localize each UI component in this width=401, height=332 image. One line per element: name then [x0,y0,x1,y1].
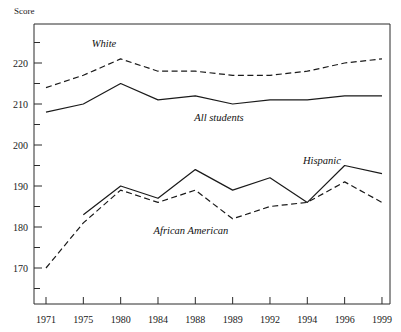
score-trend-line-chart: Score 170180190200210220 197119751980198… [0,0,401,332]
y-tick-label: 180 [13,222,28,233]
series-annotation-all-students: All students [193,112,243,123]
y-tick-label: 210 [13,99,28,110]
x-tick-label: 1975 [73,314,93,325]
y-tick-label: 170 [13,263,28,274]
y-axis-title: Score [14,6,35,16]
x-tick-label: 1980 [111,314,131,325]
chart-background [0,0,401,332]
chart-container: Score 170180190200210220 197119751980198… [0,0,401,332]
series-annotation-hispanic: Hispanic [302,155,341,166]
x-tick-label: 1989 [223,314,243,325]
x-tick-label: 1971 [36,314,56,325]
y-tick-label: 190 [13,181,28,192]
series-annotation-white: White [92,38,117,49]
y-tick-label: 220 [13,58,28,69]
x-tick-label: 1996 [335,314,355,325]
x-tick-label: 1994 [297,314,317,325]
y-tick-label: 200 [13,140,28,151]
x-tick-label: 1999 [372,314,392,325]
x-tick-label: 1992 [260,314,280,325]
x-tick-label: 1988 [185,314,205,325]
series-annotation-african-american: African American [153,225,229,236]
x-tick-label: 1984 [148,314,168,325]
